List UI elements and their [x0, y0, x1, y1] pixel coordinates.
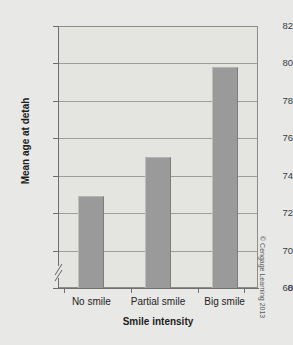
y-tick-mark — [53, 176, 58, 177]
y-tick-mark — [53, 101, 58, 102]
y-tick-label: 70 — [247, 246, 293, 256]
bar — [78, 196, 104, 288]
x-axis-line — [58, 288, 259, 289]
x-tick-mark — [244, 288, 245, 293]
y-tick-mark — [53, 63, 58, 64]
figure-container: 82807876747270680 No smilePartial smileB… — [0, 0, 293, 345]
gridline — [59, 63, 257, 64]
y-tick-label: 72 — [247, 208, 293, 218]
y-tick-mark — [53, 26, 58, 27]
bar — [212, 67, 238, 288]
x-tick-mark — [198, 288, 199, 293]
x-tick-label: No smile — [58, 296, 125, 307]
x-tick-mark — [131, 288, 132, 293]
copyright-credit: © Cengage Learning 2013 — [256, 236, 268, 345]
x-tick-label: Partial smile — [125, 296, 192, 307]
y-tick-mark — [53, 251, 58, 252]
y-tick-mark — [53, 138, 58, 139]
y-tick-label: 74 — [247, 171, 293, 181]
y-tick-label: 80 — [247, 58, 293, 68]
y-tick-mark — [53, 213, 58, 214]
bar — [145, 157, 171, 288]
y-axis-line — [58, 26, 59, 288]
x-axis-title: Smile intensity — [58, 316, 258, 327]
x-tick-label: Big smile — [191, 296, 258, 307]
x-tick-mark — [64, 288, 65, 293]
y-axis-title: Mean age at detah — [18, 10, 34, 272]
y-tick-label: 76 — [247, 133, 293, 143]
y-tick-label: 78 — [247, 96, 293, 106]
axis-break-icon — [51, 262, 66, 282]
y-tick-label: 82 — [247, 21, 293, 31]
